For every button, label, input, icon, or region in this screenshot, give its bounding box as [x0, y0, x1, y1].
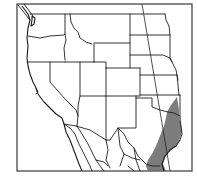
map-canvas	[0, 0, 197, 185]
